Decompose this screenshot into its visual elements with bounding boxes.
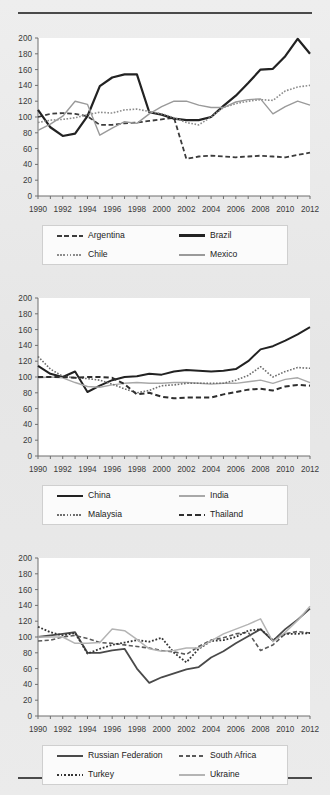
x-tick-label: 1990 [29, 465, 48, 474]
x-tick-label: 2000 [153, 205, 172, 214]
y-tick-label: 140 [18, 81, 32, 90]
y-tick-label: 140 [18, 341, 32, 350]
y-tick-label: 180 [18, 310, 32, 319]
y-tick-label: 80 [23, 389, 33, 398]
legend-item-south-africa[interactable]: South Africa [165, 751, 287, 760]
legend-swatch-russian-federation [57, 755, 83, 757]
x-tick-label: 2008 [251, 465, 270, 474]
legend-item-brazil[interactable]: Brazil [165, 231, 287, 240]
legend-swatch-south-africa [179, 755, 205, 757]
line-chart-2: 0204060801001201401601802001990199219941… [0, 282, 330, 482]
legend-swatch-china [57, 495, 83, 497]
y-tick-label: 120 [18, 357, 32, 366]
x-tick-label: 2010 [276, 465, 295, 474]
x-tick-label: 2012 [301, 205, 320, 214]
x-tick-label: 1992 [54, 725, 73, 734]
y-tick-label: 160 [18, 586, 32, 595]
x-tick-label: 2004 [202, 465, 221, 474]
y-tick-label: 0 [27, 192, 32, 201]
y-tick-label: 180 [18, 50, 32, 59]
legend-swatch-brazil [179, 234, 205, 236]
legend-item-russian-federation[interactable]: Russian Federation [43, 751, 165, 760]
y-tick-label: 40 [23, 420, 33, 429]
top-rule [18, 12, 312, 14]
chart-panel-2: 0204060801001201401601802001990199219941… [0, 282, 330, 532]
line-chart-3: 0204060801001201401601802001990199219941… [0, 542, 330, 742]
x-tick-label: 1996 [103, 725, 122, 734]
legend-label-chile: Chile [88, 250, 108, 259]
y-tick-label: 200 [18, 554, 32, 563]
legend-label-china: China [88, 491, 110, 500]
legend-label-mexico: Mexico [210, 250, 237, 259]
legend-2: China India Malaysia Thailand [42, 485, 288, 525]
legend-item-thailand[interactable]: Thailand [165, 510, 287, 519]
y-tick-label: 100 [18, 633, 32, 642]
legend-swatch-malaysia [57, 514, 83, 516]
x-tick-label: 2000 [153, 725, 172, 734]
y-tick-label: 0 [27, 712, 32, 721]
x-tick-label: 1994 [78, 205, 97, 214]
legend-swatch-india [179, 495, 205, 497]
y-tick-label: 120 [18, 617, 32, 626]
y-tick-label: 140 [18, 601, 32, 610]
x-tick-label: 2010 [276, 205, 295, 214]
legend-swatch-ukraine [179, 774, 205, 776]
x-tick-label: 2002 [177, 205, 196, 214]
legend-label-russian-federation: Russian Federation [88, 751, 163, 760]
x-tick-label: 2006 [227, 725, 246, 734]
chart-panel-1: 0204060801001201401601802001990199219941… [0, 22, 330, 272]
y-tick-label: 200 [18, 34, 32, 43]
y-tick-label: 160 [18, 66, 32, 75]
x-tick-label: 2012 [301, 725, 320, 734]
legend-item-ukraine[interactable]: Ukraine [165, 770, 287, 779]
y-tick-label: 200 [18, 294, 32, 303]
legend-swatch-mexico [179, 254, 205, 256]
x-tick-label: 2010 [276, 725, 295, 734]
x-tick-label: 1992 [54, 465, 73, 474]
x-tick-label: 2002 [177, 465, 196, 474]
legend-item-chile[interactable]: Chile [43, 250, 165, 259]
legend-item-malaysia[interactable]: Malaysia [43, 510, 165, 519]
x-tick-label: 1990 [29, 205, 48, 214]
x-tick-label: 1992 [54, 205, 73, 214]
figure-page: 0204060801001201401601802001990199219941… [0, 0, 330, 795]
legend-1: Argentina Brazil Chile Mexico [42, 225, 288, 265]
y-tick-label: 60 [23, 405, 33, 414]
y-tick-label: 40 [23, 160, 33, 169]
x-tick-label: 2000 [153, 465, 172, 474]
y-tick-label: 60 [23, 665, 33, 674]
y-tick-label: 20 [23, 176, 33, 185]
y-tick-label: 60 [23, 145, 33, 154]
x-tick-label: 1998 [128, 725, 147, 734]
y-tick-label: 20 [23, 696, 33, 705]
x-tick-label: 2004 [202, 725, 221, 734]
y-tick-label: 120 [18, 97, 32, 106]
x-tick-label: 2002 [177, 725, 196, 734]
x-tick-label: 1998 [128, 465, 147, 474]
legend-swatch-turkey [57, 774, 83, 776]
legend-item-turkey[interactable]: Turkey [43, 770, 165, 779]
x-tick-label: 1996 [103, 205, 122, 214]
y-tick-label: 100 [18, 373, 32, 382]
x-tick-label: 1998 [128, 205, 147, 214]
legend-item-china[interactable]: China [43, 491, 165, 500]
y-tick-label: 20 [23, 436, 33, 445]
legend-label-ukraine: Ukraine [210, 770, 240, 779]
x-tick-label: 2006 [227, 465, 246, 474]
x-tick-label: 1994 [78, 725, 97, 734]
legend-label-argentina: Argentina [88, 231, 125, 240]
x-tick-label: 1990 [29, 725, 48, 734]
y-tick-label: 80 [23, 129, 33, 138]
legend-label-india: India [210, 491, 229, 500]
legend-swatch-chile [57, 254, 83, 256]
chart-panel-3: 0204060801001201401601802001990199219941… [0, 542, 330, 792]
legend-label-thailand: Thailand [210, 510, 243, 519]
x-tick-label: 1994 [78, 465, 97, 474]
x-tick-label: 1996 [103, 465, 122, 474]
legend-item-argentina[interactable]: Argentina [43, 231, 165, 240]
x-tick-label: 2006 [227, 205, 246, 214]
legend-item-mexico[interactable]: Mexico [165, 250, 287, 259]
y-tick-label: 180 [18, 570, 32, 579]
legend-item-india[interactable]: India [165, 491, 287, 500]
legend-label-brazil: Brazil [210, 231, 232, 240]
